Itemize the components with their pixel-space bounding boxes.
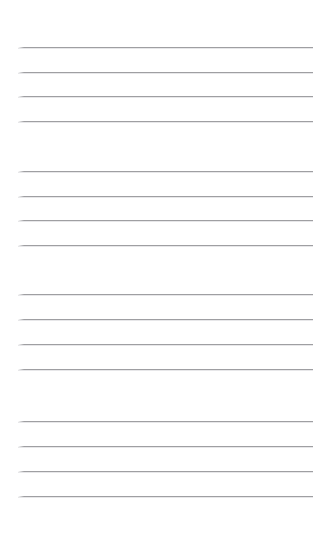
rule-line-7 xyxy=(18,220,313,221)
rule-line-4 xyxy=(18,121,313,122)
rule-line-8 xyxy=(18,245,313,246)
rule-line-9 xyxy=(18,294,313,295)
rule-line-16 xyxy=(18,496,313,497)
rule-line-3 xyxy=(18,96,313,97)
rule-line-2 xyxy=(18,72,313,73)
rule-line-13 xyxy=(18,421,313,422)
rule-line-11 xyxy=(18,344,313,345)
rule-line-1 xyxy=(18,47,313,48)
rule-line-12 xyxy=(18,369,313,370)
rule-line-10 xyxy=(18,319,313,320)
rule-line-6 xyxy=(18,196,313,197)
rule-line-14 xyxy=(18,446,313,447)
rule-line-5 xyxy=(18,171,313,172)
ruled-paper-sheet xyxy=(0,0,329,538)
rule-line-15 xyxy=(18,471,313,472)
